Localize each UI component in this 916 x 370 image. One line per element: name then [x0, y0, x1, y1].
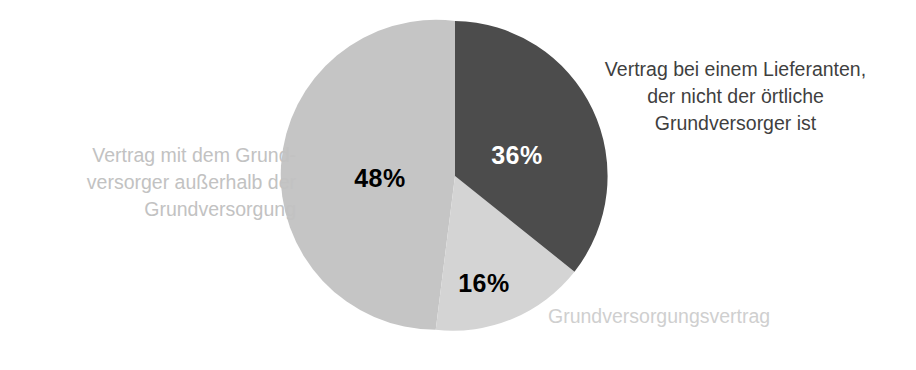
- pie-chart-figure: 36% 16% 48% Vertrag bei einem Lieferante…: [0, 0, 916, 370]
- slice-value-16: 16%: [458, 269, 510, 297]
- callout-label-vertrag-mit-grundversorger-ausserhalb: Vertrag mit dem Grund- versorger außerha…: [8, 142, 296, 223]
- slice-value-36: 36%: [491, 141, 543, 169]
- slice-value-48: 48%: [354, 164, 406, 192]
- callout-label-vertrag-bei-einem-lieferanten: Vertrag bei einem Lieferanten, der nicht…: [563, 56, 908, 137]
- callout-label-grundversorgungsvertrag: Grundversorgungsvertrag: [548, 303, 878, 330]
